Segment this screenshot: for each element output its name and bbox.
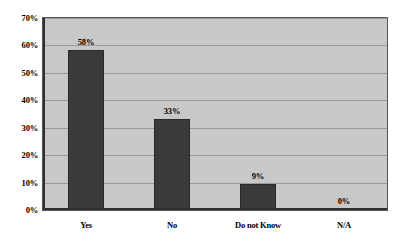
x-axis-tick: Yes [80,220,92,230]
x-axis-line [43,208,387,210]
y-axis-tick: 70% [22,13,38,23]
bar[interactable] [154,119,190,210]
y-axis-tick: 0% [26,205,38,215]
y-axis-tick: 30% [22,123,38,133]
bar-value-label: 33% [164,106,180,116]
bar-chart: 70% 60% 50% 40% 30% 20% 10% 0% 58% 33% 9… [0,0,403,247]
bar[interactable] [68,50,104,209]
bar-value-label: 58% [78,37,94,47]
y-axis-tick: 40% [22,95,38,105]
bar-value-label: 9% [252,171,264,181]
y-axis-line [43,18,45,210]
y-axis-tick: 50% [22,68,38,78]
y-axis-tick: 20% [22,150,38,160]
bar-group: 33% [129,17,215,209]
bars-layer: 58% 33% 9% 0% [43,18,387,210]
bar-value-label: 0% [338,196,350,206]
bar-group: 9% [215,17,301,209]
bar-group: 58% [43,17,129,209]
x-axis: Yes No Do not Know N/A [42,214,388,238]
bar[interactable] [240,184,276,209]
plot-area: 58% 33% 9% 0% [42,17,388,211]
bar-group: 0% [301,17,387,209]
y-axis: 70% 60% 50% 40% 30% 20% 10% 0% [0,0,42,247]
x-axis-tick: No [167,220,177,230]
x-axis-tick: Do not Know [235,220,281,230]
x-axis-tick: N/A [337,220,351,230]
y-axis-tick: 60% [22,40,38,50]
y-axis-tick: 10% [22,178,38,188]
